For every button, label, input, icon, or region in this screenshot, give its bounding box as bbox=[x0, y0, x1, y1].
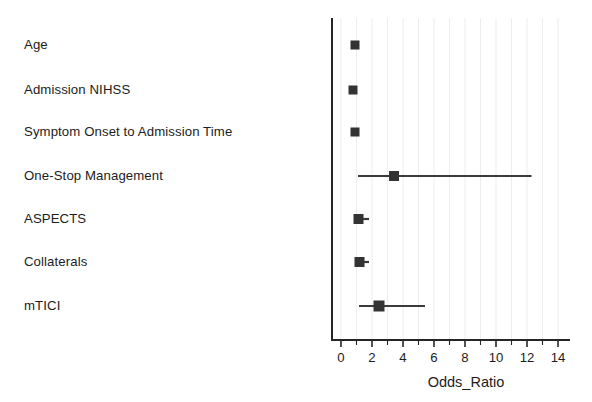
x-axis-tick-labels: 0 2 4 6 8 10 12 14 bbox=[337, 350, 565, 365]
x-tick-label-10: 10 bbox=[489, 350, 504, 365]
x-tick-label-14: 14 bbox=[551, 350, 566, 365]
x-tick-label-4: 4 bbox=[399, 350, 406, 365]
axis-spines bbox=[332, 18, 570, 340]
point-marker-collaterals bbox=[355, 257, 365, 267]
point-marker-mtici bbox=[374, 301, 385, 312]
data-row-one-stop-management bbox=[358, 171, 532, 181]
x-axis-title: Odds_Ratio bbox=[428, 374, 505, 390]
point-marker-one-stop-management bbox=[389, 171, 399, 181]
point-marker-age bbox=[351, 41, 360, 50]
point-marker-aspects bbox=[354, 214, 364, 224]
x-tick-label-6: 6 bbox=[430, 350, 437, 365]
x-tick-label-12: 12 bbox=[520, 350, 535, 365]
data-row-age bbox=[351, 41, 360, 50]
data-row-aspects bbox=[354, 214, 370, 224]
x-axis-ticks bbox=[341, 340, 558, 347]
data-row-collaterals bbox=[355, 257, 370, 267]
data-row-admission-nihss bbox=[349, 86, 358, 95]
point-marker-admission-nihss bbox=[349, 86, 358, 95]
gridlines bbox=[341, 18, 558, 339]
point-marker-symptom-onset bbox=[351, 128, 360, 137]
data-row-mtici bbox=[359, 301, 425, 312]
forest-plot-figure: Age Admission NIHSS Symptom Onset to Adm… bbox=[0, 0, 592, 402]
x-tick-label-2: 2 bbox=[368, 350, 375, 365]
plot-area: 0 2 4 6 8 10 12 14 Odds_Ratio bbox=[0, 0, 592, 402]
x-tick-label-0: 0 bbox=[337, 350, 344, 365]
data-series-layer bbox=[349, 41, 532, 312]
x-tick-label-8: 8 bbox=[461, 350, 468, 365]
data-row-symptom-onset bbox=[351, 128, 360, 137]
